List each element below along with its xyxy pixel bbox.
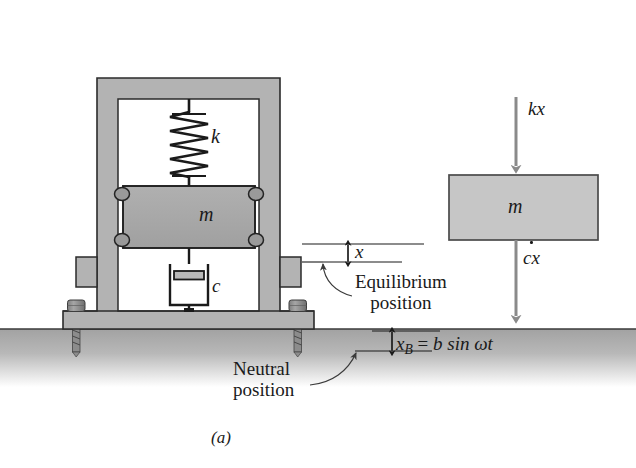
roller-bottom-left bbox=[115, 234, 130, 247]
fbd-mass-label: m bbox=[508, 195, 522, 218]
base-motion-expression: b sin ωt bbox=[433, 333, 493, 354]
roller-top-right bbox=[249, 188, 264, 201]
neutral-position-annotation: Neutral position bbox=[233, 358, 294, 401]
base-motion-equation: xB = b sin ωt bbox=[396, 333, 493, 358]
equilibrium-line-1: Equilibrium bbox=[355, 271, 447, 292]
damping-force-label: cx bbox=[523, 247, 540, 269]
damping-coefficient-label: c bbox=[212, 275, 220, 297]
displacement-label: x bbox=[355, 241, 363, 263]
equilibrium-line-2: position bbox=[355, 292, 447, 313]
figure-canvas: k m c x Equilibrium position Neutral pos… bbox=[0, 0, 636, 468]
figure-caption: (a) bbox=[211, 428, 231, 448]
base-motion-equals: = bbox=[418, 333, 429, 354]
base-motion-subscript: B bbox=[404, 342, 412, 357]
spring-constant-label: k bbox=[211, 125, 220, 148]
equilibrium-position-annotation: Equilibrium position bbox=[355, 271, 447, 314]
ground bbox=[0, 329, 636, 387]
spring-force-label: kx bbox=[528, 98, 545, 120]
bolt-head-left bbox=[68, 300, 86, 312]
damping-force-base: cx bbox=[523, 247, 540, 268]
bolt-head-right bbox=[289, 300, 307, 312]
roller-top-left bbox=[115, 188, 130, 201]
fbd-mass-block bbox=[449, 175, 598, 240]
neutral-line-2: position bbox=[233, 379, 294, 400]
mass-block bbox=[123, 186, 255, 248]
free-body-diagram bbox=[449, 97, 598, 316]
mass-label: m bbox=[199, 203, 213, 226]
roller-bottom-right bbox=[249, 234, 264, 247]
dot-accent-icon bbox=[530, 241, 533, 244]
neutral-line-1: Neutral bbox=[233, 358, 294, 379]
mechanical-system-diagram bbox=[0, 0, 636, 468]
